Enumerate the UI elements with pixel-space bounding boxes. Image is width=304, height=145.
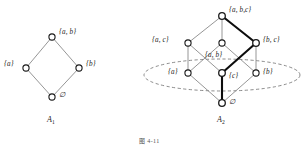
node-label-a: {a}: [4, 61, 14, 68]
node-bc: [253, 40, 260, 47]
edge-bc-to-abc-bold: [222, 16, 256, 43]
node-b-2: [253, 70, 259, 76]
node-a: [23, 65, 29, 71]
node-ab: [49, 34, 55, 40]
panel-label-a1-index: 1: [52, 119, 55, 125]
diagram-a1-edges: [26, 37, 79, 97]
node-a-2: [185, 70, 191, 76]
edge-ac-to-abc: [188, 16, 222, 43]
hasse-diagram-svg: [0, 0, 304, 145]
node-label-empty-2: ∅: [229, 99, 235, 106]
node-label-bc: {b, c}: [263, 37, 280, 44]
node-label-a-2: {a}: [168, 69, 178, 76]
diagram-a1-nodes: [23, 34, 82, 100]
figure-caption: 图 4-11: [139, 136, 160, 145]
node-label-abc: {a, b,c}: [229, 7, 251, 14]
node-label-ab: {a, b}: [59, 29, 76, 36]
panel-label-a1: A1: [47, 115, 55, 125]
edge-empty-to-b-2: [222, 73, 256, 103]
node-empty: [49, 94, 55, 100]
node-label-c: {c}: [229, 73, 238, 80]
edge-a-to-ab: [26, 37, 52, 68]
panel-label-a2-index: 2: [222, 119, 225, 125]
node-label-empty: ∅: [59, 92, 65, 99]
panel-label-a2: A2: [217, 115, 225, 125]
edge-empty-to-a: [26, 68, 52, 97]
node-label-b: {b}: [86, 61, 96, 68]
node-c: [219, 70, 226, 77]
node-abc: [219, 13, 226, 20]
node-empty-2: [219, 100, 226, 107]
edge-b-to-ab: [52, 37, 79, 68]
edge-empty-to-b: [52, 68, 79, 97]
node-ac: [185, 40, 191, 46]
figure-container: {a, b} {a} {b} ∅ {a, b,c} {a, c} {a, b} …: [0, 0, 304, 145]
node-label-b-2: {b}: [263, 69, 273, 76]
edge-empty-to-a-2: [188, 73, 222, 103]
node-label-ab-2: {a, b}: [205, 52, 222, 59]
node-ab-2: [219, 40, 225, 46]
node-label-ac: {a, c}: [152, 37, 169, 44]
node-b: [76, 65, 82, 71]
